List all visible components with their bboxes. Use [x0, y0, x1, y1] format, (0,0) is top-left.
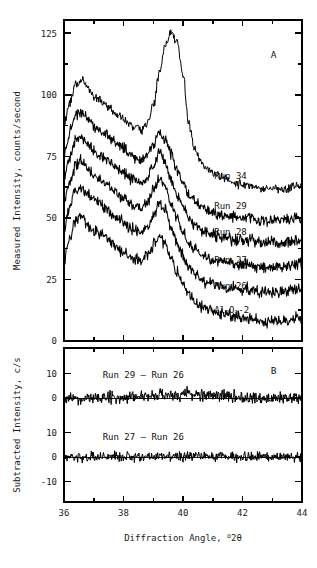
panel-a-ytick-label: 75 [46, 152, 57, 162]
x-axis-tick-label: 44 [297, 508, 308, 518]
y-axis-label-panel-b: Subtracted Intensity, c/s [12, 357, 22, 492]
xrd-figure: 0255075100125Run 34Run 29Run 28Run 27Run… [0, 0, 317, 568]
panel-b-ytick-label: 10 [46, 369, 57, 379]
panel-a-letter: A [271, 49, 277, 60]
panel-b-letter: B [271, 365, 277, 376]
label-part: -2 [238, 305, 249, 315]
curve-label-run-27: Run 27 [214, 255, 247, 265]
panel-a-ytick-label: 25 [46, 275, 57, 285]
label-part: Al [214, 305, 225, 315]
panel-b-ytick-label: 10 [46, 428, 57, 438]
panel-a-ytick-label: 0 [52, 336, 57, 346]
curve-label-run-29: Run 29 [214, 201, 247, 211]
x-axis-tick-label: 40 [178, 508, 189, 518]
panel-a-ytick-label: 100 [41, 90, 57, 100]
x-axis-tick-label: 42 [237, 508, 248, 518]
x-axis-tick-label: 38 [118, 508, 129, 518]
panel-b-ytick-label: 0 [52, 452, 57, 462]
panel-b-ytick-label: 0 [52, 393, 57, 403]
diff-run29-run26-label: Run 29 – Run 26 [103, 370, 184, 380]
curve-label-run-28: Run 28 [214, 227, 247, 237]
panel-b-ytick-label: -10 [41, 477, 57, 487]
figure-root: 0255075100125Run 34Run 29Run 28Run 27Run… [0, 0, 317, 568]
curve-label-run-34: Run 34 [214, 171, 247, 181]
panel-a-ytick-label: 125 [41, 29, 57, 39]
panel-a-ytick-label: 50 [46, 213, 57, 223]
y-axis-label-panel-a: Measured Intensity, counts/second [12, 91, 22, 270]
x-axis-label: Diffraction Angle, o2θ [124, 532, 242, 543]
x-axis-label-tail: 2θ [231, 533, 242, 543]
curve-label-run-26: Run 26 [214, 281, 247, 291]
x-axis-label-text: Diffraction Angle, [124, 533, 227, 543]
x-axis-tick-label: 36 [59, 508, 70, 518]
diff-run27-run26-label: Run 27 – Run 26 [103, 432, 184, 442]
